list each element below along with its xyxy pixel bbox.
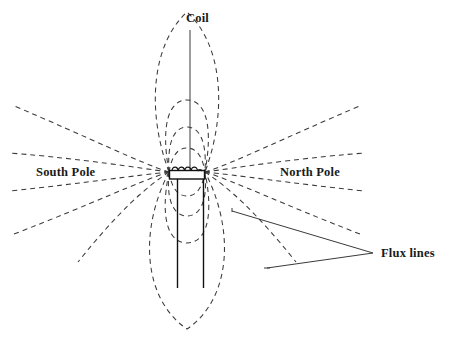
flux-arc-upper-4	[155, 12, 218, 172]
label-north-pole: North Pole	[280, 165, 340, 180]
core-rods-group	[178, 174, 204, 288]
flux-ray-left-4	[14, 172, 169, 234]
label-south-pole: South Pole	[36, 165, 95, 180]
flux-ray-left-5	[78, 172, 169, 262]
flux-ray-right-1	[205, 105, 362, 172]
flux-leader-group	[232, 208, 373, 268]
flux-arc-upper-1	[169, 148, 205, 172]
flux-ray-right-4	[205, 172, 360, 234]
flux-ray-left-1	[12, 105, 169, 172]
label-flux-lines: Flux lines	[381, 246, 435, 261]
flux-arc-upper-2	[169, 127, 206, 172]
coil-body-fill	[170, 171, 205, 180]
diagram-canvas: Coil South Pole North Pole Flux lines	[0, 0, 452, 344]
flux-arc-lower-4	[150, 172, 225, 329]
flux-leader-upper	[232, 211, 373, 253]
label-coil: Coil	[186, 11, 209, 26]
coil-winding	[170, 167, 205, 179]
flux-leader-lower	[267, 253, 373, 268]
